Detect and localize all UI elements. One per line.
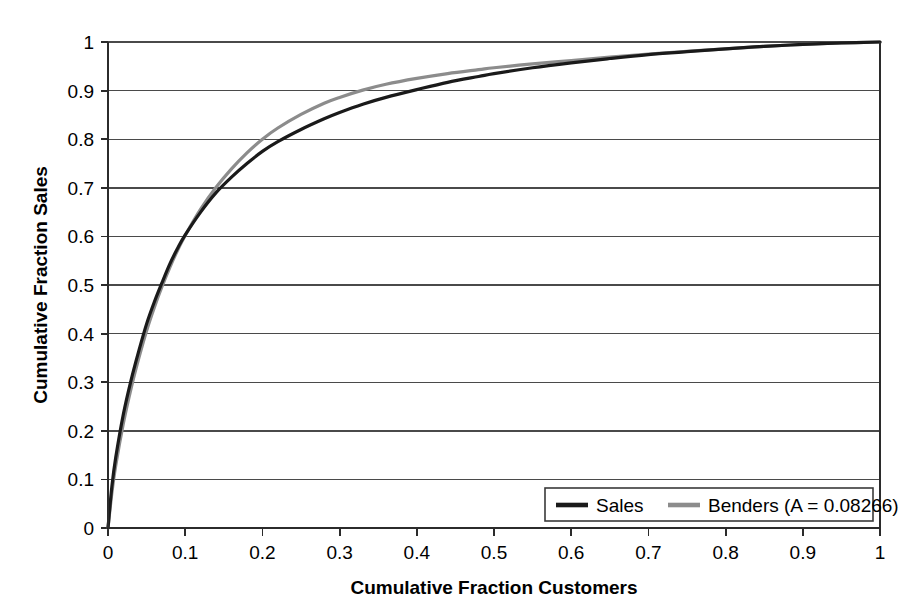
x-tick-label-0.7: 0.7 — [635, 542, 661, 563]
x-axis-title: Cumulative Fraction Customers — [350, 577, 637, 598]
y-axis-title: Cumulative Fraction Sales — [30, 166, 51, 404]
x-tick-label-1: 1 — [875, 542, 886, 563]
y-tick-label-0.1: 0.1 — [68, 469, 94, 490]
y-tick-label-0.3: 0.3 — [68, 372, 94, 393]
legend-label-benders: Benders (A = 0.08266) — [708, 495, 899, 516]
x-tick-label-0.5: 0.5 — [481, 542, 507, 563]
chart-legend: Sales Benders (A = 0.08266) — [545, 488, 899, 521]
x-tick-label-0.4: 0.4 — [404, 542, 431, 563]
y-tick-label-0: 0 — [83, 518, 94, 539]
y-tick-label-0.5: 0.5 — [68, 275, 94, 296]
chart-canvas: 00.10.20.30.40.50.60.70.80.91 00.10.20.3… — [0, 0, 921, 615]
x-tick-label-0.9: 0.9 — [790, 542, 816, 563]
x-tick-label-0.8: 0.8 — [712, 542, 738, 563]
x-tick-label-0: 0 — [103, 542, 114, 563]
y-tick-label-0.2: 0.2 — [68, 421, 94, 442]
y-tick-label-1: 1 — [83, 32, 94, 53]
x-tick-label-0.3: 0.3 — [326, 542, 352, 563]
y-tick-label-0.6: 0.6 — [68, 226, 94, 247]
legend-label-sales: Sales — [596, 495, 644, 516]
y-tick-label-0.9: 0.9 — [68, 81, 94, 102]
y-tick-label-0.4: 0.4 — [68, 324, 95, 345]
x-tick-label-0.1: 0.1 — [172, 542, 198, 563]
y-tick-label-0.8: 0.8 — [68, 129, 94, 150]
x-tick-label-0.2: 0.2 — [249, 542, 275, 563]
x-tick-label-0.6: 0.6 — [558, 542, 584, 563]
y-tick-label-0.7: 0.7 — [68, 178, 94, 199]
lorenz-curve-chart: 00.10.20.30.40.50.60.70.80.91 00.10.20.3… — [0, 0, 921, 615]
